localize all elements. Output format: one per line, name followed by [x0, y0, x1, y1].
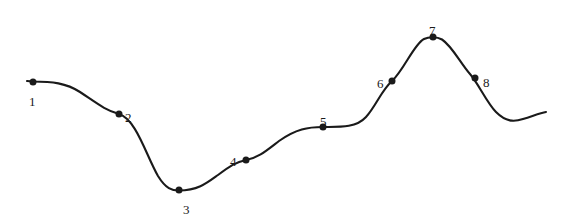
plot-background — [0, 0, 568, 219]
data-point-label-3: 3 — [183, 203, 190, 216]
data-point-marker-2 — [116, 111, 123, 118]
data-point-label-8: 8 — [483, 76, 490, 89]
data-point-marker-4 — [243, 157, 250, 164]
data-point-label-5: 5 — [320, 115, 327, 128]
data-point-label-1: 1 — [29, 95, 36, 108]
data-point-label-2: 2 — [125, 111, 132, 124]
data-point-marker-3 — [176, 187, 183, 194]
curve-plot-svg — [0, 0, 568, 219]
data-point-marker-6 — [389, 78, 396, 85]
data-point-marker-8 — [472, 75, 479, 82]
data-point-label-7: 7 — [429, 24, 436, 37]
data-point-label-4: 4 — [230, 155, 237, 168]
curve-figure: 12345678 — [0, 0, 568, 219]
data-point-label-6: 6 — [377, 77, 384, 90]
data-point-marker-1 — [30, 79, 37, 86]
